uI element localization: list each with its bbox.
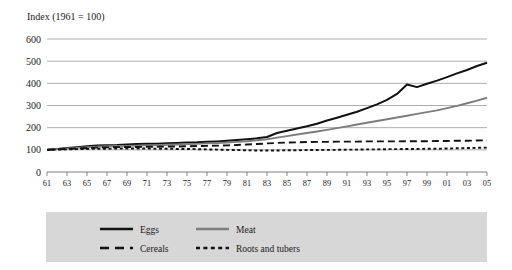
series-line-eggs	[47, 63, 487, 150]
x-axis-tick-label-89: 89	[323, 179, 331, 188]
x-axis-tick-label-61: 61	[43, 179, 51, 188]
x-axis-tick-label-77: 77	[203, 179, 211, 188]
legend-panel	[46, 212, 487, 262]
x-axis-tick-labels: 6163656769717375777981838587899193959799…	[43, 179, 491, 188]
x-axis-tick-label-75: 75	[183, 179, 191, 188]
x-axis-tick-label-83: 83	[263, 179, 271, 188]
line-chart: Index (1961 = 100) 0100200300400500600 6…	[0, 0, 512, 270]
x-axis-tick-label-05: 05	[483, 179, 491, 188]
x-axis-tick-label-95: 95	[383, 179, 391, 188]
x-axis-tick-label-81: 81	[243, 179, 251, 188]
x-axis-line	[47, 172, 487, 176]
x-axis-tick-label-67: 67	[103, 179, 111, 188]
y-axis-tick-labels: 0100200300400500600	[26, 34, 41, 178]
x-axis-tick-label-93: 93	[363, 179, 371, 188]
x-axis-tick-label-01: 01	[443, 179, 451, 188]
x-axis-tick-label-69: 69	[123, 179, 131, 188]
x-axis-tick-label-03: 03	[463, 179, 471, 188]
x-axis-tick-label-87: 87	[303, 179, 311, 188]
x-axis-tick-label-63: 63	[63, 179, 71, 188]
y-axis-origin-label: 0	[36, 167, 41, 178]
gridlines-group	[47, 39, 487, 150]
x-axis-tick-label-71: 71	[143, 179, 151, 188]
y-axis-tick-label-600: 600	[26, 34, 41, 45]
y-axis-tick-label-200: 200	[26, 122, 41, 133]
data-series-group	[47, 63, 487, 151]
x-axis-tick-label-85: 85	[283, 179, 291, 188]
x-axis-tick-label-79: 79	[223, 179, 231, 188]
y-axis-tick-label-500: 500	[26, 56, 41, 67]
y-axis-tick-label-300: 300	[26, 100, 41, 111]
x-axis-tick-label-65: 65	[83, 179, 91, 188]
x-axis-tick-label-73: 73	[163, 179, 171, 188]
y-axis-tick-label-100: 100	[26, 144, 41, 155]
chart-container: Index (1961 = 100) 0100200300400500600 6…	[0, 0, 512, 270]
legend-label: Roots and tubers	[236, 244, 300, 254]
legend-label: Eggs	[140, 225, 159, 235]
legend-label: Cereals	[140, 244, 169, 254]
x-axis-tick-label-99: 99	[423, 179, 431, 188]
chart-axis-title: Index (1961 = 100)	[27, 11, 105, 23]
x-axis-tick-label-97: 97	[403, 179, 411, 188]
x-axis-tick-label-91: 91	[343, 179, 351, 188]
legend-label: Meat	[236, 225, 256, 235]
y-axis-tick-label-400: 400	[26, 78, 41, 89]
